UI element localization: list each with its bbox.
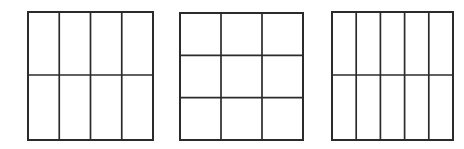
grid-2-cell-area <box>180 13 303 140</box>
grid-3-cell-area <box>332 12 453 140</box>
figure-canvas: Three partitioned rectangle array diagra… <box>0 0 464 149</box>
grid-2 <box>180 13 303 140</box>
array-diagram-figure: Three partitioned rectangle array diagra… <box>0 0 464 149</box>
grid-3 <box>332 12 453 140</box>
grids-layer <box>28 12 453 140</box>
grid-1 <box>28 12 153 140</box>
